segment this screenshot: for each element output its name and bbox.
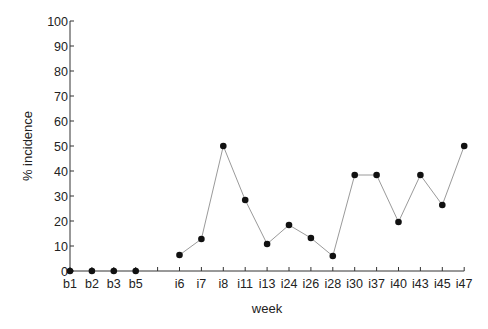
y-axis: 0102030405060708090100 [47,15,74,279]
data-series [67,143,468,275]
x-tick-label: i13 [259,277,276,291]
y-tick-label: 20 [54,215,68,229]
y-tick-label: 80 [54,65,68,79]
data-point-marker [308,235,315,242]
y-tick-label: 40 [54,165,68,179]
data-point-marker [198,236,205,243]
data-point-marker [111,268,118,275]
data-point-marker [264,241,271,248]
x-tick-label: i11 [237,277,253,291]
data-point-marker [132,268,139,275]
x-tick-label: i6 [175,277,185,291]
data-point-marker [395,219,402,226]
data-point-marker [373,172,380,179]
data-point-marker [220,143,227,150]
x-tick-label: i30 [346,277,363,291]
series-line [180,146,465,256]
y-tick-label: 100 [47,15,68,29]
y-tick-label: 70 [54,90,68,104]
x-tick-label: i8 [218,277,228,291]
data-point-marker [461,143,468,150]
x-tick-label: i26 [303,277,320,291]
y-tick-label: 90 [54,40,68,54]
x-axis: b1b2b3b5i6i7i8i11i13i24i26i28i30i37i40i4… [63,267,473,291]
data-point-marker [351,172,358,179]
x-tick-label: i47 [456,277,473,291]
x-tick-label: i45 [434,277,451,291]
y-axis-title: % incidence [20,111,35,181]
x-tick-label: i7 [197,277,207,291]
data-point-marker [67,268,74,275]
x-tick-label: i24 [281,277,298,291]
x-tick-label: b5 [129,277,143,291]
data-point-marker [242,197,249,204]
x-axis-title: week [251,301,283,316]
y-tick-label: 60 [54,115,68,129]
data-point-marker [286,222,293,229]
x-tick-label: i43 [412,277,429,291]
x-tick-label: i37 [368,277,385,291]
x-tick-label: i40 [390,277,407,291]
data-point-marker [417,172,424,179]
data-point-marker [89,268,96,275]
data-point-marker [176,252,183,259]
y-tick-label: 10 [54,240,68,254]
x-tick-label: i28 [324,277,341,291]
y-tick-label: 30 [54,190,68,204]
line-chart: 0102030405060708090100 b1b2b3b5i6i7i8i11… [0,0,488,329]
data-point-marker [439,202,446,209]
y-tick-label: 50 [54,140,68,154]
data-point-marker [330,253,337,260]
x-tick-label: b3 [107,277,121,291]
x-tick-label: b2 [85,277,99,291]
x-tick-label: b1 [63,277,77,291]
